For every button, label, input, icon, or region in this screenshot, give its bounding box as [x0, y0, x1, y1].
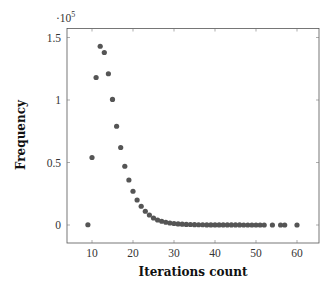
y-scale-label: ·105: [56, 10, 75, 24]
data-point: [130, 189, 135, 194]
x-tick-label: 40: [209, 247, 221, 259]
data-point: [262, 222, 267, 227]
data-point: [114, 124, 119, 129]
data-point: [139, 204, 144, 209]
data-point: [89, 155, 94, 160]
data-point: [270, 222, 275, 227]
plot-frame: [67, 29, 319, 244]
data-points: [85, 44, 299, 228]
x-tick-label: 10: [86, 247, 98, 259]
y-tick-label: 1: [55, 94, 61, 106]
data-point: [85, 222, 90, 227]
y-tick-label: 0.5: [47, 157, 62, 169]
data-point: [122, 164, 127, 169]
data-point: [282, 222, 287, 227]
x-tick-label: 20: [127, 247, 139, 259]
data-point: [106, 71, 111, 76]
y-tick-label: 1.5: [47, 32, 62, 44]
data-point: [135, 197, 140, 202]
scatter-chart: 10203040506000.511.5 ·105 Iterations cou…: [0, 0, 336, 289]
data-point: [126, 177, 131, 182]
data-point: [143, 209, 148, 214]
data-point: [110, 97, 115, 102]
y-tick-label: 0: [55, 219, 61, 231]
data-point: [98, 44, 103, 49]
x-tick-label: 50: [250, 247, 262, 259]
x-axis-title: Iterations count: [139, 265, 248, 279]
x-tick-label: 60: [291, 247, 303, 259]
x-tick-label: 30: [168, 247, 180, 259]
data-point: [294, 222, 299, 227]
data-point: [102, 50, 107, 55]
data-point: [118, 145, 123, 150]
data-point: [94, 75, 99, 80]
y-axis-title: Frequency: [14, 99, 28, 170]
